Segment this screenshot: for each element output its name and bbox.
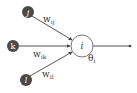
neuron-diagram: j k l i wij wik wil θi — [0, 0, 137, 93]
input-node-j: j — [22, 6, 34, 18]
output-dot — [129, 45, 132, 48]
weight-label-il: wil — [42, 69, 54, 80]
neuron-label: i — [81, 41, 84, 51]
input-node-l: l — [20, 74, 32, 86]
input-node-k: k — [7, 40, 19, 52]
weight-label-ik: wik — [33, 49, 47, 60]
node-label: l — [25, 76, 28, 85]
threshold-label: θi — [88, 53, 95, 64]
node-label: k — [11, 42, 16, 51]
